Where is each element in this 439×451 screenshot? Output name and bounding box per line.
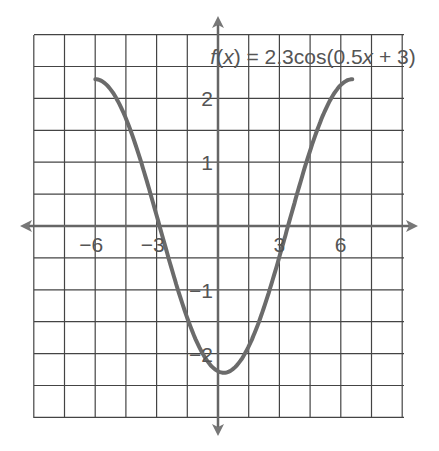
y-tick-label: −2 xyxy=(189,343,213,366)
x-tick-label: 3 xyxy=(274,233,286,256)
y-tick-label: −1 xyxy=(189,279,213,302)
x-tick-labels: −6−336 xyxy=(79,233,346,256)
graph: −6−336 21−1−2 f(x) = 2.3cos(0.5x + 3) xyxy=(0,0,439,451)
x-tick-label: 6 xyxy=(335,233,347,256)
chart-title: f(x) = 2.3cos(0.5x + 3) xyxy=(210,45,415,68)
x-tick-label: −3 xyxy=(141,233,165,256)
x-tick-label: −6 xyxy=(79,233,103,256)
y-tick-label: 1 xyxy=(201,151,213,174)
y-tick-label: 2 xyxy=(201,87,213,110)
